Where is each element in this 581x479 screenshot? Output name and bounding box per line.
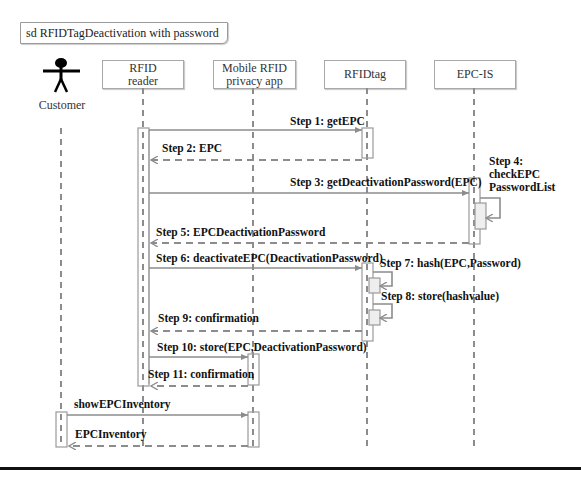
activation-hash bbox=[369, 278, 380, 293]
activation-epc-is-nested bbox=[475, 203, 486, 229]
message-show-inventory: showEPCInventory bbox=[74, 398, 170, 411]
message-epc-inventory: EPCInventory bbox=[75, 428, 147, 441]
message-step4-line1: Step 4: bbox=[489, 155, 523, 168]
message-step5: Step 5: EPCDeactivationPassword bbox=[156, 226, 325, 239]
message-step8: Step 8: store(hashvalue) bbox=[381, 290, 499, 303]
message-step9: Step 9: confirmation bbox=[158, 312, 259, 325]
message-step7: Step 7: hash(EPC,Password) bbox=[380, 257, 521, 270]
message-step10: Step 10: store(EPC,DeactivationPassword) bbox=[157, 341, 367, 354]
message-step1: Step 1: getEPC bbox=[290, 115, 365, 128]
bottom-rule bbox=[0, 467, 581, 470]
message-step11: Step 11: confirmation bbox=[148, 368, 254, 381]
message-step4-line2: checkEPC bbox=[489, 168, 540, 181]
message-step2: Step 2: EPC bbox=[162, 142, 222, 155]
message-step6: Step 6: deactivateEPC(DeactivationPasswo… bbox=[156, 252, 383, 265]
message-step3: Step 3: getDeactivationPassword(EPC) bbox=[290, 176, 482, 189]
stick-figure-icon bbox=[43, 58, 80, 92]
message-step4-line3: PasswordList bbox=[489, 181, 555, 194]
activation-store bbox=[369, 310, 380, 325]
